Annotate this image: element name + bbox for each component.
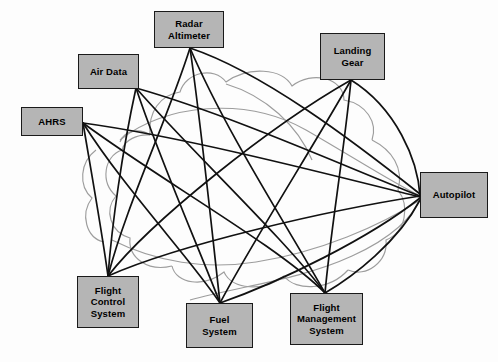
node-label-line: Landing: [332, 45, 374, 56]
link-landing_gear-fuel_system: [220, 80, 351, 303]
node-label-line: Control: [89, 296, 127, 307]
node-autopilot[interactable]: Autopilot: [420, 172, 488, 218]
node-label-line: Fuel System: [189, 314, 250, 336]
node-landing-gear[interactable]: Landing Gear: [320, 33, 385, 80]
node-flight-management-system[interactable]: Flight Management System: [290, 293, 363, 345]
link-radar_altimeter-flight_management_system: [190, 48, 325, 293]
node-label-line: Management: [295, 313, 358, 324]
node-air-data[interactable]: Air Data: [78, 54, 139, 89]
link-ahrs-flight_management_system: [83, 123, 325, 293]
diagram-canvas: Radar Altimeter Air Data AHRS Landing Ge…: [0, 0, 498, 362]
link-ahrs-autopilot: [83, 123, 420, 197]
node-label-line: Autopilot: [431, 189, 478, 200]
link-autopilot-flight_control_system: [108, 196, 420, 276]
node-label-line: Flight: [295, 302, 358, 313]
cloud-sweep-2: [112, 200, 420, 265]
link-air_data-flight_management_system: [136, 88, 325, 293]
link-landing_gear-flight_management_system: [325, 80, 351, 293]
node-flight-control-system[interactable]: Flight Control System: [77, 276, 139, 328]
node-label-line: Altimeter: [166, 30, 212, 41]
link-landing_gear-autopilot: [351, 80, 420, 196]
node-radar-altimeter[interactable]: Radar Altimeter: [154, 11, 224, 48]
link-air_data-autopilot: [136, 88, 420, 196]
node-label-line: System: [295, 325, 358, 336]
link-landing_gear-flight_control_system: [108, 80, 351, 276]
link-autopilot-flight_management_system: [325, 200, 420, 293]
node-ahrs[interactable]: AHRS: [21, 107, 83, 136]
node-label-line: System: [89, 308, 127, 319]
node-label-line: Flight: [89, 285, 127, 296]
node-label-line: Gear: [332, 57, 374, 68]
node-fuel-system[interactable]: Fuel System: [186, 303, 253, 348]
link-ahrs-flight_control_system: [83, 123, 108, 276]
node-label-line: Radar: [166, 18, 212, 29]
node-label-line: AHRS: [36, 116, 67, 127]
link-radar_altimeter-autopilot: [190, 48, 420, 194]
node-label-line: Air Data: [88, 66, 129, 77]
cloud-sweep-1: [120, 108, 420, 196]
